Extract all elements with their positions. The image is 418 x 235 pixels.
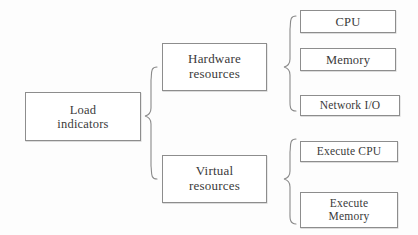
node-virtual-resources-text: Virtual resources [163,164,266,193]
node-load-indicators-line2: indicators [26,117,140,131]
node-load-indicators-text: Load indicators [26,103,140,131]
node-execute-memory-line2: Memory [301,210,397,223]
node-virtual-resources: Virtual resources [162,155,267,203]
node-execute-cpu: Execute CPU [300,141,398,162]
node-memory-label: Memory [301,53,395,67]
node-virtual-resources-line2: resources [163,179,266,194]
node-hardware-resources-line2: resources [163,67,266,82]
brace-hardware-to-leaves [284,16,296,111]
node-hardware-resources-text: Hardware resources [163,52,266,81]
node-network-io: Network I/O [300,95,400,116]
brace-root-to-branches [145,67,157,179]
node-hardware-resources-line1: Hardware [163,52,266,67]
node-network-io-label: Network I/O [301,99,399,112]
node-load-indicators-line1: Load [26,103,140,117]
node-execute-memory-text: Execute Memory [301,197,397,223]
node-execute-memory-line1: Execute [301,197,397,210]
node-memory: Memory [300,48,396,71]
node-cpu: CPU [300,10,396,33]
node-load-indicators: Load indicators [25,92,141,141]
node-cpu-label: CPU [301,15,395,29]
brace-virtual-to-leaves [284,139,296,224]
load-indicators-diagram: Load indicators Hardware resources Virtu… [0,0,418,235]
node-execute-memory: Execute Memory [300,192,398,228]
node-virtual-resources-line1: Virtual [163,164,266,179]
node-execute-cpu-label: Execute CPU [301,145,397,158]
node-hardware-resources: Hardware resources [162,43,267,91]
